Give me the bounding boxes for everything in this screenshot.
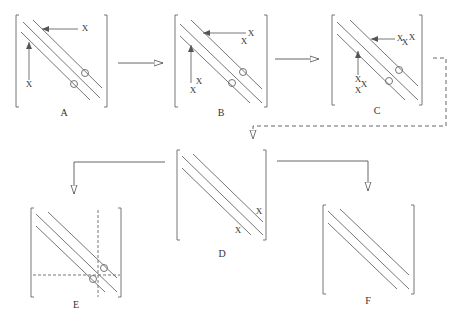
matrix-e [31, 208, 121, 297]
mark-x: X [82, 24, 89, 33]
bracket-right [104, 15, 107, 107]
diagram-canvas [0, 0, 463, 321]
arrow-d-to-e [74, 162, 165, 194]
mark-x: X [256, 207, 263, 216]
mark-x: X [235, 226, 242, 235]
matrix-d-label: D [218, 249, 225, 259]
arrow-d-to-f [277, 161, 368, 191]
matrix-c [332, 15, 422, 105]
matrix-e-label: E [73, 300, 79, 310]
matrix-f-label: F [365, 296, 371, 306]
flow-arrows [74, 58, 446, 194]
mark-x: X [409, 33, 416, 42]
bracket-left [16, 15, 19, 107]
matrix-d [177, 150, 266, 240]
matrix-b-label: B [218, 108, 225, 118]
matrix-c-label: C [374, 106, 381, 116]
mark-x: X [248, 29, 255, 38]
mark-x: X [26, 80, 33, 89]
matrix-a [16, 15, 107, 107]
matrix-f [323, 205, 414, 294]
mark-x: X [190, 86, 197, 95]
mark-x: X [355, 86, 362, 95]
matrix-a-label: A [60, 108, 67, 118]
mark-x: X [402, 38, 409, 47]
mark-x: X [241, 37, 248, 46]
